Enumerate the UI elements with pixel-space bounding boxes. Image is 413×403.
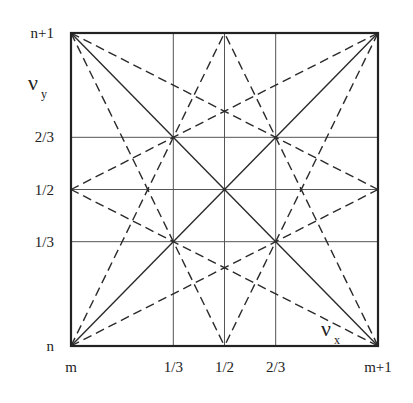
x-tick-label: 1/3 <box>164 359 183 375</box>
x-tick-label: 2/3 <box>266 359 285 375</box>
y-tick-label: n <box>47 338 55 354</box>
y-axis-subscript: y <box>41 87 47 101</box>
y-tick-label: 1/2 <box>35 182 54 198</box>
y-tick-label: 1/3 <box>35 234 54 250</box>
x-tick-label: m+1 <box>364 359 392 375</box>
y-tick-label: n+1 <box>31 25 54 41</box>
x-axis-symbol: ν <box>321 316 331 341</box>
x-tick-label: m <box>65 359 77 375</box>
y-axis-symbol: ν <box>28 70 38 95</box>
y-tick-label: 2/3 <box>35 129 54 145</box>
x-tick-label: 1/2 <box>215 359 234 375</box>
x-tick-labels: m1/31/22/3m+1 <box>65 359 392 375</box>
x-axis-subscript: x <box>334 333 340 347</box>
tune-diagram: m1/31/22/3m+1 n1/31/22/3n+1 ν x ν y <box>0 0 413 403</box>
